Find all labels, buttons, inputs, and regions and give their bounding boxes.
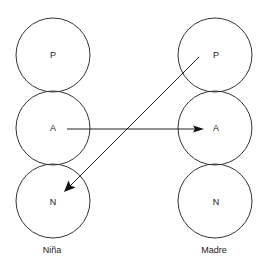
label-madre-p: P <box>213 50 219 60</box>
node-nina-a: A <box>16 91 90 165</box>
node-madre-n: N <box>178 164 252 238</box>
label-nina-p: P <box>50 50 56 60</box>
column-nina: P A N Niña <box>16 18 90 255</box>
column-label-nina: Niña <box>43 245 62 255</box>
node-madre-p: P <box>178 18 252 92</box>
label-madre-a: A <box>213 123 219 133</box>
label-madre-n: N <box>213 197 220 207</box>
column-label-madre: Madre <box>201 245 227 255</box>
label-nina-n: N <box>50 197 57 207</box>
label-nina-a: A <box>50 123 56 133</box>
node-nina-n: N <box>16 164 90 238</box>
node-madre-a: A <box>178 91 252 165</box>
node-nina-p: P <box>16 18 90 92</box>
column-madre: P A N Madre <box>178 18 252 255</box>
edge-madre-p-to-nina-n <box>64 57 199 192</box>
edge-nina-a-to-madre-a <box>67 126 204 133</box>
diagram-canvas: P A N Niña P A N Madre <box>0 0 266 268</box>
